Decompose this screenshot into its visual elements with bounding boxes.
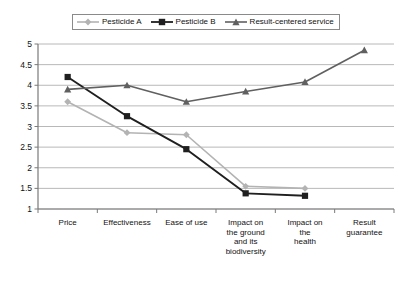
- line-chart: Pesticide A Pesticide B Result-centered …: [0, 0, 407, 281]
- data-point-marker-square: [302, 193, 308, 199]
- x-axis-tick-label: Price: [38, 218, 97, 228]
- data-point-marker-diamond: [302, 185, 309, 192]
- x-axis-tick-label-line: Price: [38, 218, 97, 228]
- data-point-marker-square: [183, 146, 189, 152]
- x-axis-tick-label-line: biodiversity: [216, 247, 275, 257]
- y-axis-tick-label: 3: [4, 122, 32, 131]
- x-axis-tick-label: Effectiveness: [97, 218, 156, 228]
- y-axis-tick-label: 5: [4, 40, 32, 49]
- x-axis-tick-label-line: Result: [335, 218, 394, 228]
- x-axis-tick-label-line: Impact on: [216, 218, 275, 228]
- data-point-marker-square: [65, 74, 71, 80]
- x-axis-tick-label-line: and its: [216, 237, 275, 247]
- x-axis-tick-label: Resultguarantee: [335, 218, 394, 237]
- y-axis-tick-label: 1: [4, 205, 32, 214]
- data-point-marker-square: [124, 113, 130, 119]
- x-axis-tick-label-line: the ground: [216, 228, 275, 238]
- x-axis-tick-label-line: Ease of use: [157, 218, 216, 228]
- x-axis-tick-label-line: Impact on: [275, 218, 334, 228]
- series-line-3: [305, 50, 364, 82]
- series-line-3: [246, 82, 305, 91]
- y-axis-tick-label: 2: [4, 163, 32, 172]
- x-axis-tick-label-line: Effectiveness: [97, 218, 156, 228]
- series-line-3: [127, 85, 186, 102]
- series-line-1: [68, 102, 127, 133]
- series-line-3: [186, 91, 245, 101]
- plot-area: [0, 0, 407, 281]
- y-axis-tick-label: 4: [4, 81, 32, 90]
- x-axis-tick-label: Ease of use: [157, 218, 216, 228]
- x-axis-tick-label: Impact onthe groundand itsbiodiversity: [216, 218, 275, 256]
- y-axis-tick-label: 4.5: [4, 60, 32, 69]
- y-axis-tick-label: 3.5: [4, 101, 32, 110]
- series-line-1: [186, 135, 245, 187]
- x-axis-tick-label-line: health: [275, 237, 334, 247]
- series-line-2: [68, 77, 127, 116]
- x-axis-tick-label-line: the: [275, 228, 334, 238]
- series-line-2: [246, 193, 305, 195]
- series-line-2: [186, 149, 245, 193]
- y-axis-tick-label: 1.5: [4, 184, 32, 193]
- data-point-marker-diamond: [64, 98, 71, 105]
- data-point-marker-diamond: [124, 129, 131, 136]
- x-axis-tick-label: Impact onthehealth: [275, 218, 334, 247]
- data-point-marker-triangle: [361, 47, 368, 54]
- y-axis-tick-label: 2.5: [4, 143, 32, 152]
- x-axis-tick-label-line: guarantee: [335, 228, 394, 238]
- data-point-marker-square: [243, 190, 249, 196]
- series-line-3: [68, 85, 127, 89]
